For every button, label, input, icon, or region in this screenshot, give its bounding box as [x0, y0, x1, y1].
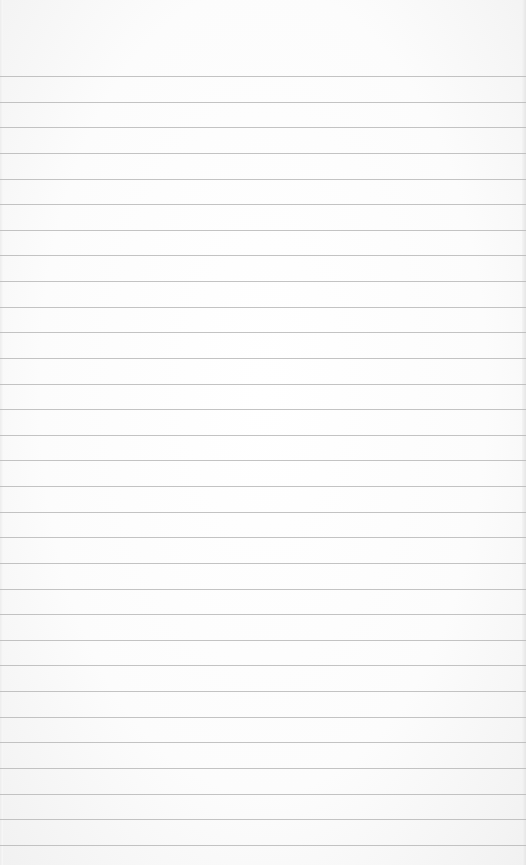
ruled-line: [0, 486, 526, 487]
ruled-line: [0, 230, 526, 231]
ruled-line: [0, 409, 526, 410]
ruled-line: [0, 589, 526, 590]
ruled-line: [0, 358, 526, 359]
ruled-line: [0, 819, 526, 820]
ruled-line: [0, 691, 526, 692]
ruled-line: [0, 255, 526, 256]
ruled-line: [0, 102, 526, 103]
ruled-line: [0, 204, 526, 205]
ruled-line: [0, 435, 526, 436]
ruled-line: [0, 794, 526, 795]
ruled-line: [0, 845, 526, 846]
ruled-line: [0, 512, 526, 513]
ruled-line: [0, 127, 526, 128]
ruled-line: [0, 307, 526, 308]
ruled-line: [0, 665, 526, 666]
ruled-line: [0, 179, 526, 180]
paper-left-edge: [0, 0, 3, 865]
ruled-line: [0, 153, 526, 154]
ruled-line: [0, 717, 526, 718]
ruled-line: [0, 563, 526, 564]
lined-paper: [0, 0, 526, 865]
ruled-line: [0, 537, 526, 538]
ruled-line: [0, 460, 526, 461]
ruled-line: [0, 614, 526, 615]
ruled-line: [0, 384, 526, 385]
ruled-line: [0, 281, 526, 282]
ruled-line: [0, 332, 526, 333]
ruled-line: [0, 76, 526, 77]
ruled-line: [0, 742, 526, 743]
paper-right-edge: [522, 0, 526, 865]
ruled-line: [0, 768, 526, 769]
ruled-line: [0, 640, 526, 641]
